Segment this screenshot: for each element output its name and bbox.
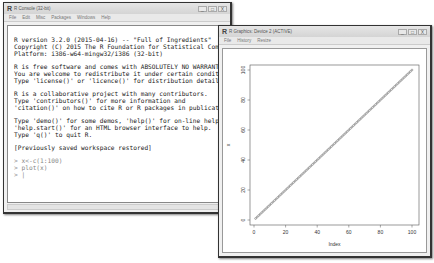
svg-text:80: 80 [240,97,246,103]
console-line: [Previously saved workspace restored] [14,144,224,151]
console-title: R Console (32-bit) [14,6,198,11]
plot-canvas: 020406080100020406080100Indexx [222,48,427,253]
console-line: R is a collaborative project with many c… [14,90,224,97]
svg-text:60: 60 [346,229,352,235]
svg-text:40: 40 [314,229,320,235]
console-line: Type 'license()' or 'licence()' for dist… [14,77,224,84]
console-line: 'citation()' on how to cite R or R packa… [14,104,224,111]
svg-text:100: 100 [240,66,246,75]
svg-text:80: 80 [378,229,384,235]
svg-text:x: x [225,143,231,146]
svg-text:60: 60 [240,127,246,133]
console-menubar: File Edit Misc Packages Windows Help [4,14,230,22]
console-line: Type 'demo()' for some demos, 'help()' f… [14,117,224,124]
menu-file[interactable]: File [224,38,231,43]
console-prompt[interactable]: > | [14,171,224,178]
horizontal-scrollbar[interactable] [7,204,227,210]
graphics-title: R Graphics: Device 2 (ACTIVE) [229,29,398,34]
minimize-button[interactable]: _ [398,29,407,35]
maximize-button[interactable]: □ [408,29,417,35]
svg-text:0: 0 [240,218,246,221]
graphics-titlebar[interactable]: R R Graphics: Device 2 (ACTIVE) _ □ X [219,26,430,37]
svg-text:20: 20 [240,187,246,193]
svg-text:20: 20 [283,229,289,235]
menu-help[interactable]: Help [101,15,110,20]
menu-packages[interactable]: Packages [51,15,71,20]
menu-resize[interactable]: Resize [257,38,271,43]
svg-text:Index: Index [328,241,341,247]
console-line: Platform: i386-w64-mingw32/i386 (32-bit) [14,50,224,57]
r-logo-icon: R [222,28,227,35]
console-line: R is free software and comes with ABSOLU… [14,63,224,70]
console-line: Type 'contributors()' for more informati… [14,97,224,104]
menu-edit[interactable]: Edit [22,15,30,20]
close-button[interactable]: X [218,6,227,12]
r-console-window[interactable]: R R Console (32-bit) _ □ X File Edit Mis… [3,2,232,214]
svg-text:40: 40 [240,157,246,163]
close-button[interactable]: X [418,29,427,35]
svg-text:100: 100 [408,229,417,235]
menu-windows[interactable]: Windows [77,15,95,20]
console-line: You are welcome to redistribute it under… [14,70,224,77]
console-line: R version 3.2.0 (2015-04-16) -- "Full of… [14,36,224,43]
console-output[interactable]: R version 3.2.0 (2015-04-16) -- "Full of… [7,25,227,203]
menu-history[interactable]: History [237,38,251,43]
console-input-line: > plot(x) [14,164,224,171]
scatter-plot: 020406080100020406080100Indexx [223,49,429,255]
menu-file[interactable]: File [9,15,16,20]
console-line: 'help.start()' for an HTML browser inter… [14,124,224,131]
console-line: Copyright (C) 2015 The R Foundation for … [14,43,224,50]
scrollbar-thumb[interactable] [430,51,432,81]
r-graphics-window[interactable]: R R Graphics: Device 2 (ACTIVE) _ □ X Fi… [218,25,432,258]
menu-misc[interactable]: Misc [36,15,45,20]
console-titlebar[interactable]: R R Console (32-bit) _ □ X [4,3,230,14]
r-logo-icon: R [7,5,12,12]
graphics-menubar: File History Resize [219,37,430,45]
svg-text:0: 0 [253,229,256,235]
maximize-button[interactable]: □ [208,6,217,12]
console-input-line: > x<-c(1:100) [14,157,224,164]
minimize-button[interactable]: _ [198,6,207,12]
console-line: Type 'q()' to quit R. [14,131,224,138]
